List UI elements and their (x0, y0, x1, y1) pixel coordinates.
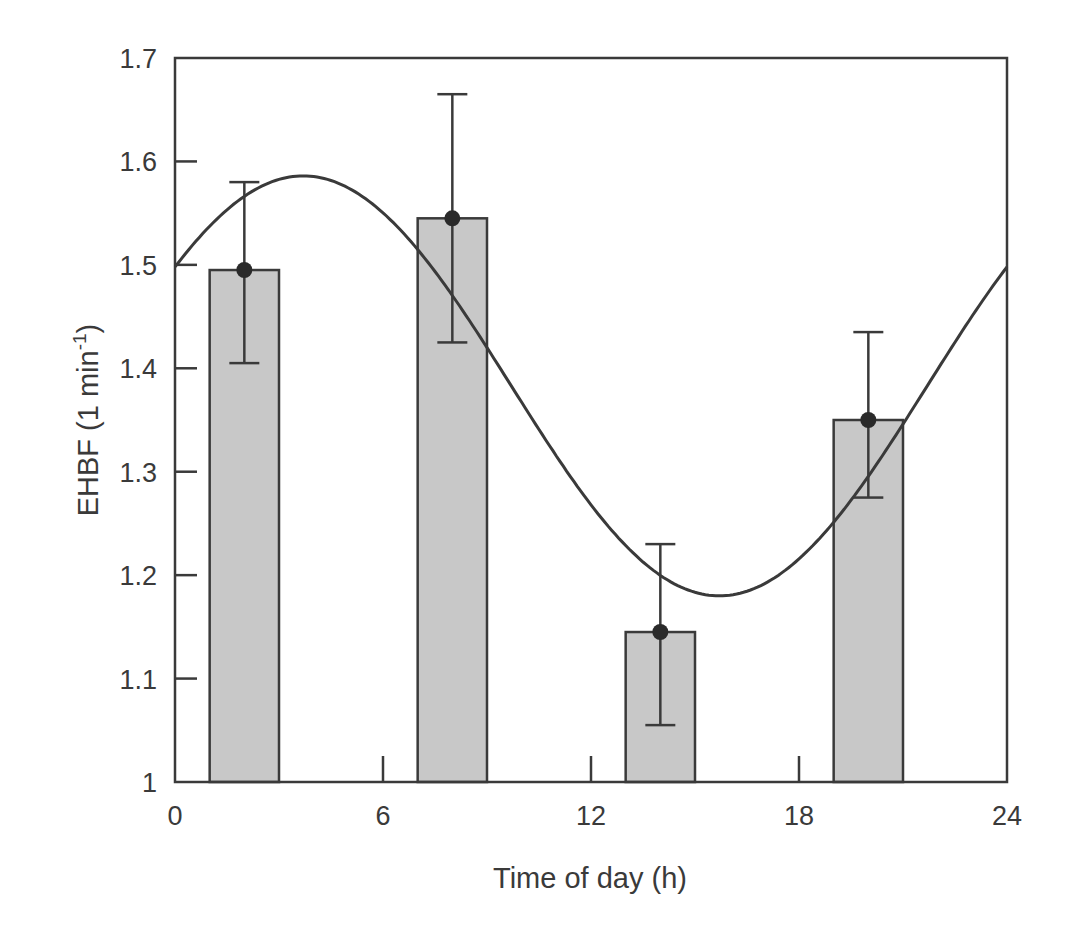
x-tick-label: 12 (576, 801, 606, 831)
y-tick-label: 1.4 (119, 354, 157, 384)
y-tick-label: 1.5 (119, 251, 157, 281)
y-tick-label: 1.3 (119, 458, 157, 488)
mean-marker (236, 262, 252, 278)
y-axis-title: EHBF (1 min-1) (69, 324, 104, 517)
y-tick-label: 1.1 (119, 665, 157, 695)
x-tick-label: 0 (167, 801, 182, 831)
x-tick-label: 18 (784, 801, 814, 831)
mean-marker (860, 412, 876, 428)
bar-series (210, 218, 903, 782)
x-tick-label: 6 (375, 801, 390, 831)
y-tick-label: 1.6 (119, 147, 157, 177)
y-tick-label: 1 (142, 768, 157, 798)
mean-marker (652, 624, 668, 640)
y-tick-label: 1.7 (119, 44, 157, 74)
x-tick-label: 24 (992, 801, 1022, 831)
x-axis-title: Time of day (h) (493, 862, 687, 894)
chart-canvas: 11.11.21.31.41.51.61.7 06121824 Time of … (0, 0, 1081, 937)
y-tick-label: 1.2 (119, 561, 157, 591)
error-bars (229, 94, 883, 725)
mean-marker (444, 210, 460, 226)
y-axis-ticks: 11.11.21.31.41.51.61.7 (119, 44, 197, 798)
